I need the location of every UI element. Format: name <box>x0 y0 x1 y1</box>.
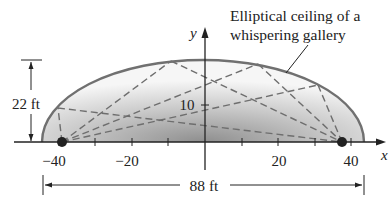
focus-right <box>337 137 347 147</box>
whispering-gallery-diagram: −40 −20 20 40 10 x y Elliptical ceiling … <box>0 0 392 210</box>
height-dim-down-arrow-icon <box>29 134 34 141</box>
x-tick-label-20: 20 <box>272 153 287 169</box>
caption-line-2: whispering gallery <box>230 26 346 43</box>
x-tick-label-neg40: −40 <box>42 153 65 169</box>
width-dim-label: 88 ft <box>190 177 220 194</box>
height-dim-label: 22 ft <box>12 96 41 112</box>
caption-leader-line <box>286 45 308 73</box>
width-dim-right-arrow-icon <box>355 183 362 188</box>
caption-line-1: Elliptical ceiling of a <box>230 7 361 24</box>
width-dim-left-arrow-icon <box>45 183 52 188</box>
focus-left <box>57 137 67 147</box>
y-axis-arrow-icon <box>202 27 209 38</box>
x-tick-label-neg20: −20 <box>115 153 138 169</box>
y-tick-label-10: 10 <box>180 97 195 113</box>
x-axis-arrow-icon <box>376 139 386 146</box>
x-tick-label-40: 40 <box>344 153 359 169</box>
x-axis-label: x <box>380 147 388 163</box>
y-axis-label: y <box>188 25 197 41</box>
height-dim-up-arrow-icon <box>29 62 34 69</box>
